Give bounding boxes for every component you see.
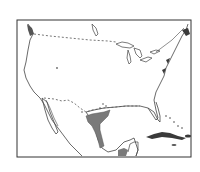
hispaniola: [185, 135, 191, 138]
great-salt-lake: [56, 67, 58, 69]
range-map: [0, 0, 200, 172]
jamaica: [172, 144, 177, 146]
